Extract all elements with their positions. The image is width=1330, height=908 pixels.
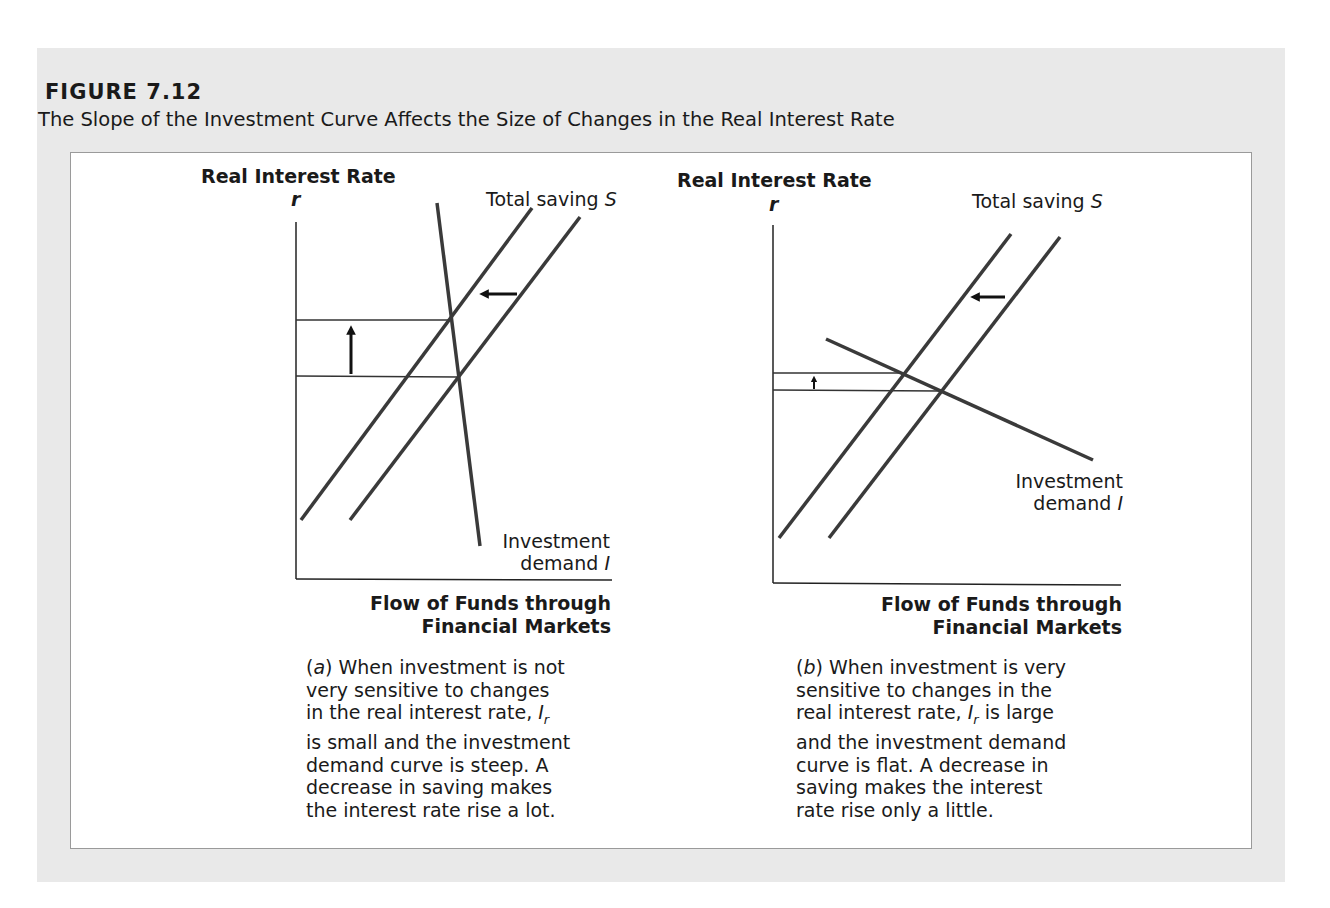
- investment-label-line2-b: demand: [1033, 492, 1117, 514]
- saving-symbol-b: S: [1091, 190, 1103, 212]
- x-axis-a: [296, 579, 612, 580]
- caption-b-line: and the investment demand: [796, 731, 1066, 754]
- caption-a-line: demand curve is steep. A: [306, 754, 570, 777]
- y-axis-label-b: Real Interest Rate: [677, 169, 872, 191]
- x-axis-label-b: Flow of Funds through Financial Markets: [840, 593, 1122, 639]
- caption-b: (b) When investment is very sensitive to…: [796, 656, 1066, 821]
- caption-a-line: ) When investment is not: [325, 656, 565, 678]
- saving-curve-new-a: [301, 208, 532, 520]
- y-axis-label-a: Real Interest Rate: [201, 165, 396, 187]
- chart-a: [296, 203, 612, 580]
- saving-label-b: Total saving S: [972, 190, 1103, 212]
- caption-b-line: is large: [979, 701, 1054, 723]
- investment-symbol-a: I: [604, 552, 610, 574]
- x-axis-label-a: Flow of Funds through Financial Markets: [330, 592, 611, 638]
- x-axis-b: [773, 583, 1121, 585]
- investment-curve-b: [826, 339, 1093, 460]
- old-rate-line-b: [773, 390, 940, 391]
- saving-symbol-a: S: [605, 188, 617, 210]
- investment-curve-a: [437, 203, 480, 546]
- x-axis-label-line2-b: Financial Markets: [840, 616, 1122, 639]
- x-axis-label-line1-a: Flow of Funds through: [330, 592, 611, 615]
- saving-label-a: Total saving S: [486, 188, 617, 210]
- saving-label-text-a: Total saving: [486, 188, 605, 210]
- caption-a-line: is small and the investment: [306, 731, 570, 754]
- caption-a-line: decrease in saving makes: [306, 776, 570, 799]
- caption-b-line: real interest rate,: [796, 701, 968, 723]
- graphs: [0, 0, 1330, 908]
- caption-b-line: rate rise only a little.: [796, 799, 1066, 822]
- investment-label-a: Investment demand I: [480, 530, 610, 574]
- investment-label-line2-a: demand: [520, 552, 604, 574]
- caption-a-subscript: r: [544, 712, 549, 727]
- caption-a-line: the interest rate rise a lot.: [306, 799, 570, 822]
- caption-a: (a) When investment is not very sensitiv…: [306, 656, 570, 821]
- investment-label-line1-a: Investment: [480, 530, 610, 552]
- caption-b-letter: b: [803, 656, 815, 678]
- caption-b-line: ) When investment is very: [815, 656, 1066, 678]
- y-axis-symbol-b: r: [769, 193, 778, 215]
- x-axis-label-line1-b: Flow of Funds through: [840, 593, 1122, 616]
- investment-symbol-b: I: [1117, 492, 1123, 514]
- investment-label-b: Investment demand I: [990, 470, 1123, 514]
- old-rate-line-a: [296, 376, 458, 377]
- caption-b-line: sensitive to changes in the: [796, 679, 1066, 702]
- caption-b-line: curve is flat. A decrease in: [796, 754, 1066, 777]
- saving-label-text-b: Total saving: [972, 190, 1091, 212]
- caption-b-line: saving makes the interest: [796, 776, 1066, 799]
- y-axis-symbol-a: r: [291, 188, 300, 210]
- caption-a-letter: a: [313, 656, 325, 678]
- saving-curve-old-a: [350, 217, 580, 520]
- x-axis-label-line2-a: Financial Markets: [330, 615, 611, 638]
- investment-label-line1-b: Investment: [990, 470, 1123, 492]
- caption-a-line: in the real interest rate,: [306, 701, 538, 723]
- chart-b: [773, 225, 1121, 585]
- caption-a-line: very sensitive to changes: [306, 679, 570, 702]
